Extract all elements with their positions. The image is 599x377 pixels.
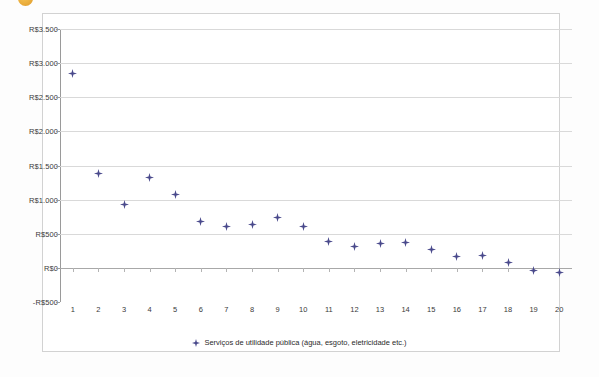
y-axis-tick-mark [56,268,60,269]
x-axis-tick-label: 13 [376,305,384,314]
data-point-marker [427,245,436,254]
legend-marker-icon [192,339,200,347]
x-axis-tick-mark [329,268,330,272]
y-axis-tick-mark [56,29,60,30]
data-point-marker [273,213,282,222]
x-axis-tick-mark [150,268,151,272]
x-axis-tick-mark [431,268,432,272]
gridline [60,63,572,64]
data-point-marker [145,173,154,182]
data-point-marker [120,200,129,209]
x-axis-tick-label: 11 [325,305,333,314]
x-axis-tick-mark [380,268,381,272]
data-point-marker [350,242,359,251]
orange-bullet-icon [18,0,33,6]
gridline [60,234,572,235]
x-axis-tick-label: 19 [529,305,537,314]
x-axis-tick-mark [124,268,125,272]
x-axis-tick-label: 16 [453,305,461,314]
data-point-marker [94,169,103,178]
x-axis-tick-mark [175,268,176,272]
y-axis-tick-label: R$2.000 [29,127,58,136]
y-axis-tick-mark [56,166,60,167]
x-axis-tick-label: 7 [224,305,228,314]
data-point-marker [171,190,180,199]
data-point-marker [376,239,385,248]
x-axis-tick-mark [303,268,304,272]
legend-label: Serviços de utilidade pública (água, esg… [204,338,406,347]
x-axis-tick-mark [457,268,458,272]
x-axis-tick-label: 9 [276,305,280,314]
y-axis-tick-label: R$3.500 [29,25,58,34]
y-axis-tick-label: R$500 [35,229,58,238]
data-point-marker [222,222,231,231]
gridline [60,268,572,269]
x-axis-tick-label: 1 [71,305,75,314]
x-axis-tick-label: 15 [427,305,435,314]
chart-legend: Serviços de utilidade pública (água, esg… [0,338,599,349]
y-axis-tick-mark [56,131,60,132]
gridline [60,131,572,132]
x-axis-tick-mark [482,268,483,272]
x-axis-tick-mark [278,268,279,272]
data-point-marker [555,268,564,277]
y-axis-tick-mark [56,63,60,64]
data-point-marker [504,258,513,267]
x-axis-tick-mark [252,268,253,272]
x-axis-tick-label: 4 [148,305,152,314]
x-axis-tick-mark [354,268,355,272]
data-point-marker [196,217,205,226]
x-axis-tick-label: 18 [504,305,512,314]
y-axis-tick-label: -R$500 [33,298,58,307]
x-axis-tick-label: 3 [122,305,126,314]
chart-page: R$3.500R$3.000R$2.500R$2.000R$1.500R$1.0… [0,0,599,377]
x-axis-tick-label: 8 [250,305,254,314]
legend-item: Serviços de utilidade pública (água, esg… [192,338,406,347]
x-axis-tick-label: 6 [199,305,203,314]
y-axis-tick-mark [56,234,60,235]
data-point-marker [299,222,308,231]
x-axis-tick-mark [201,268,202,272]
data-point-marker [478,251,487,260]
data-point-marker [529,266,538,275]
y-axis-tick-mark [56,200,60,201]
x-axis-tick-label: 10 [299,305,307,314]
data-point-marker [452,252,461,261]
data-point-marker [248,220,257,229]
x-axis-tick-label: 5 [173,305,177,314]
x-axis-tick-mark [98,268,99,272]
y-axis-tick-label: R$1.000 [29,195,58,204]
x-axis-tick-label: 20 [555,305,563,314]
x-axis-tick-mark [406,268,407,272]
y-axis-tick-label: R$3.000 [29,59,58,68]
x-axis-tick-mark [226,268,227,272]
y-axis-tick-label: R$2.500 [29,93,58,102]
x-axis-tick-mark [508,268,509,272]
x-axis-tick-mark [73,268,74,272]
x-axis-tick-label: 14 [401,305,409,314]
gridline [60,200,572,201]
y-axis-tick-label: R$1.500 [29,161,58,170]
x-axis-tick-label: 12 [350,305,358,314]
gridline [60,29,572,30]
x-axis-tick-label: 17 [478,305,486,314]
y-axis-tick-mark [56,302,60,303]
gridline [60,97,572,98]
data-point-marker [68,69,77,78]
gridline [60,166,572,167]
data-point-marker [324,237,333,246]
data-point-marker [401,238,410,247]
x-axis-tick-label: 2 [96,305,100,314]
y-axis-tick-mark [56,97,60,98]
